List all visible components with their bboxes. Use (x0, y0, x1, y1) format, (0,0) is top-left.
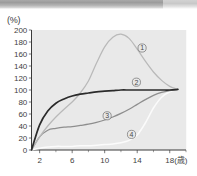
plot-texture-stripe (56, 30, 57, 150)
x-axis-unit-label: (歳) (174, 155, 188, 165)
plot-texture-stripe (90, 30, 91, 150)
plot-texture-stripe (64, 30, 65, 150)
growth-curve-figure: (%) 02040608010012014016018020026101418(… (0, 0, 197, 176)
y-axis-tick-label: 140 (14, 62, 28, 71)
plot-texture-stripe (92, 30, 93, 150)
x-axis-tick-label: 14 (133, 156, 142, 165)
y-axis-tick-label: 80 (18, 98, 27, 107)
plot-texture-stripe (184, 30, 185, 150)
series-tag-label-3: 3 (105, 112, 109, 119)
plot-texture-stripe (34, 30, 35, 150)
plot-texture-stripe (80, 30, 81, 150)
plot-texture-stripe (96, 30, 97, 150)
y-axis-tick-label: 120 (14, 74, 28, 83)
y-axis-tick-label: 160 (14, 50, 28, 59)
plot-texture-stripe (54, 30, 55, 150)
plot-texture-stripe (50, 30, 51, 150)
plot-texture-stripe (70, 30, 71, 150)
plot-texture-stripe (86, 30, 87, 150)
plot-texture-stripe (84, 30, 85, 150)
plot-texture-stripe (108, 30, 109, 150)
series-tag-label-1: 1 (140, 44, 144, 51)
plot-texture-stripe (60, 30, 61, 150)
plot-texture-stripe (66, 30, 67, 150)
y-axis-tick-label: 180 (14, 38, 28, 47)
plot-texture-stripe (94, 30, 95, 150)
plot-texture-stripe (100, 30, 101, 150)
x-axis-tick-label: 2 (37, 156, 42, 165)
plot-texture-stripe (88, 30, 89, 150)
chart-svg: 02040608010012014016018020026101418(歳)12… (0, 0, 197, 176)
y-axis-tick-label: 100 (14, 86, 28, 95)
series-tag-label-2: 2 (134, 79, 138, 86)
plot-texture-stripe (78, 30, 79, 150)
y-axis-tick-label: 20 (18, 134, 27, 143)
plot-texture-stripe (68, 30, 69, 150)
y-axis-tick-label: 0 (23, 146, 28, 155)
series-tag-label-4: 4 (130, 131, 134, 138)
plot-texture-stripe (52, 30, 53, 150)
x-axis-tick-label: 6 (70, 156, 75, 165)
plot-texture-stripe (102, 30, 103, 150)
plot-texture-stripe (106, 30, 107, 150)
y-axis-tick-label: 200 (14, 26, 28, 35)
plot-texture-stripe (186, 30, 187, 150)
y-axis-tick-label: 40 (18, 122, 27, 131)
plot-texture-stripe (58, 30, 59, 150)
plot-texture-stripe (62, 30, 63, 150)
plot-texture-stripe (48, 30, 49, 150)
x-axis-tick-label: 10 (100, 156, 109, 165)
y-axis-tick-label: 60 (18, 110, 27, 119)
plot-texture-stripe (98, 30, 99, 150)
plot-texture-stripe (72, 30, 73, 150)
plot-texture-stripe (182, 30, 183, 150)
plot-texture-stripe (40, 30, 41, 150)
plot-texture-stripe (74, 30, 75, 150)
plot-texture-stripe (180, 30, 181, 150)
plot-texture-stripe (76, 30, 77, 150)
